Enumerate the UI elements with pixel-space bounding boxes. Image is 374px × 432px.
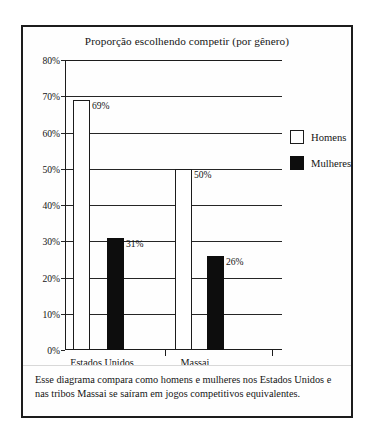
bar-value-label: 50%: [194, 169, 212, 180]
y-axis-tick-mark: [61, 60, 65, 61]
gridline: [65, 278, 282, 279]
bar-homens: 69%: [73, 100, 90, 350]
y-axis-tick-label: 30%: [42, 236, 60, 247]
legend-item: Homens: [290, 130, 351, 144]
plot-area: 0%10%20%30%40%50%60%70%80% 69%31%50%26% …: [65, 60, 282, 350]
y-axis-tick-label: 60%: [42, 127, 60, 138]
legend-item: Mulheres: [290, 156, 351, 170]
y-axis-tick-label: 0%: [47, 345, 60, 356]
chart-title: Proporção escolhendo competir (por gêner…: [23, 35, 351, 47]
y-axis-tick-mark: [61, 278, 65, 279]
y-axis-tick-mark: [61, 169, 65, 170]
black-square-filled-icon: [290, 156, 304, 170]
x-axis-category-label: Estados Unidos: [70, 357, 134, 368]
bar-value-label: 69%: [92, 100, 110, 111]
y-axis-tick-mark: [61, 133, 65, 134]
figure-caption: Esse diagrama compara como homens e mulh…: [35, 373, 340, 400]
x-axis-tick-mark: [272, 350, 273, 356]
y-axis-tick-label: 70%: [42, 91, 60, 102]
white-square-outline-icon: [290, 130, 304, 144]
gridline: [65, 169, 282, 170]
gridline: [65, 133, 282, 134]
legend-label: Homens: [311, 132, 346, 143]
gridline: [65, 60, 282, 61]
y-axis-tick-mark: [61, 241, 65, 242]
y-axis-tick-label: 10%: [42, 308, 60, 319]
y-axis-tick-mark: [61, 314, 65, 315]
y-axis-tick-mark: [61, 350, 65, 351]
bar-value-label: 26%: [226, 256, 244, 267]
gridline: [65, 314, 282, 315]
bar-mulheres: 31%: [107, 238, 124, 350]
x-axis-category-label: Massai: [181, 357, 210, 368]
bar-value-label: 31%: [126, 238, 144, 249]
figure-frame: Proporção escolhendo competir (por gêner…: [21, 25, 353, 418]
bar-mulheres: 26%: [207, 256, 224, 350]
gridline: [65, 96, 282, 97]
y-axis-tick-mark: [61, 205, 65, 206]
chart-legend: HomensMulheres: [290, 130, 351, 170]
y-axis-tick-label: 20%: [42, 272, 60, 283]
bar-homens: 50%: [175, 169, 192, 350]
gridline: [65, 205, 282, 206]
y-axis-tick-label: 80%: [42, 55, 60, 66]
x-axis-tick-mark: [165, 350, 166, 356]
caption-divider: [23, 365, 351, 366]
y-axis-tick-label: 40%: [42, 200, 60, 211]
y-axis-tick-mark: [61, 96, 65, 97]
gridline: [65, 241, 282, 242]
legend-label: Mulheres: [311, 158, 351, 169]
y-axis-tick-label: 50%: [42, 163, 60, 174]
